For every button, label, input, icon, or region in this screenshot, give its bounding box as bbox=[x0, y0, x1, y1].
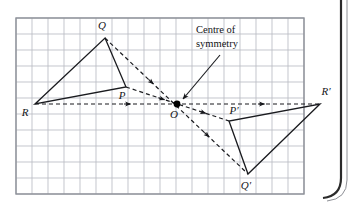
symmetry-diagram: QPROP′R′Q′ Centre of symmetry bbox=[0, 0, 356, 203]
vertex-label-Qp: Q′ bbox=[241, 179, 252, 191]
vertex-label-R: R bbox=[21, 106, 29, 118]
centre-of-symmetry-label-line1: Centre of bbox=[196, 24, 236, 35]
vertex-label-Rp: R′ bbox=[320, 85, 331, 97]
figure-root: QPROP′R′Q′ Centre of symmetry bbox=[0, 0, 356, 203]
vertex-label-P: P bbox=[118, 89, 126, 101]
centre-of-symmetry-point bbox=[174, 101, 181, 108]
vertex-label-Q: Q bbox=[98, 19, 106, 31]
centre-of-symmetry-label-line2: symmetry bbox=[196, 38, 239, 49]
vertex-label-Pp: P′ bbox=[228, 104, 239, 116]
vertex-label-O: O bbox=[170, 108, 178, 120]
